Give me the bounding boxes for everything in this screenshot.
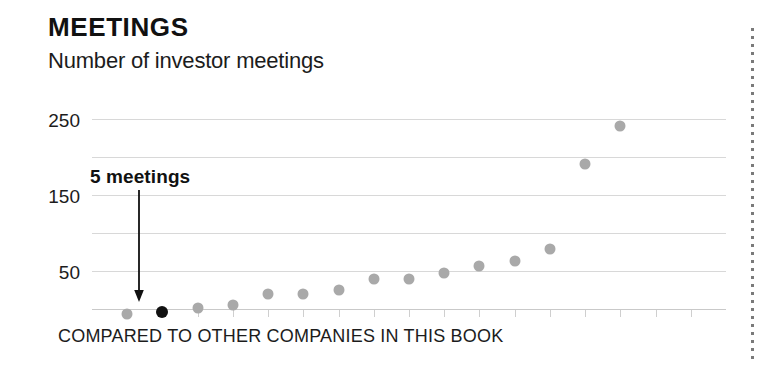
annotation-arrow-icon bbox=[132, 190, 146, 302]
x-axis-tick bbox=[585, 310, 586, 317]
gridline-200 bbox=[92, 157, 726, 158]
data-point bbox=[333, 285, 344, 296]
data-point bbox=[509, 255, 520, 266]
gridline-100 bbox=[92, 233, 726, 234]
gridline-250 bbox=[92, 119, 726, 120]
x-axis-tick bbox=[620, 310, 621, 317]
page-title: MEETINGS bbox=[48, 14, 189, 41]
y-axis-tick-label: 150 bbox=[48, 186, 80, 208]
chart-page: MEETINGS Number of investor meetings 250… bbox=[0, 0, 773, 365]
page-subtitle: Number of investor meetings bbox=[48, 49, 324, 73]
y-axis-tick-label: 250 bbox=[48, 110, 80, 132]
x-axis-tick bbox=[691, 310, 692, 317]
data-point bbox=[122, 308, 133, 319]
data-point bbox=[544, 243, 555, 254]
x-axis-tick bbox=[515, 310, 516, 317]
x-axis-caption: COMPARED TO OTHER COMPANIES IN THIS BOOK bbox=[58, 326, 503, 347]
x-axis-tick bbox=[550, 310, 551, 317]
x-axis-tick bbox=[656, 310, 657, 317]
right-dotted-rule bbox=[751, 28, 754, 361]
x-axis-tick bbox=[409, 310, 410, 317]
data-point bbox=[439, 267, 450, 278]
y-axis-tick-label: 50 bbox=[59, 262, 80, 284]
data-point bbox=[227, 299, 238, 310]
data-point bbox=[404, 274, 415, 285]
data-point-highlighted bbox=[156, 306, 168, 318]
data-point bbox=[474, 261, 485, 272]
x-axis-tick bbox=[339, 310, 340, 317]
data-point bbox=[192, 302, 203, 313]
plot-area: 25015050 bbox=[92, 120, 726, 310]
x-axis-tick bbox=[268, 310, 269, 317]
data-point bbox=[263, 289, 274, 300]
data-point bbox=[615, 120, 626, 131]
gridline-150 bbox=[92, 195, 726, 196]
gridline-50 bbox=[92, 271, 726, 272]
data-point bbox=[298, 289, 309, 300]
x-axis-tick bbox=[303, 310, 304, 317]
x-axis-tick bbox=[233, 310, 234, 317]
x-axis-tick bbox=[374, 310, 375, 317]
data-point bbox=[368, 274, 379, 285]
data-point bbox=[580, 158, 591, 169]
x-axis-tick bbox=[444, 310, 445, 317]
annotation-label: 5 meetings bbox=[90, 166, 190, 188]
x-axis-tick bbox=[479, 310, 480, 317]
